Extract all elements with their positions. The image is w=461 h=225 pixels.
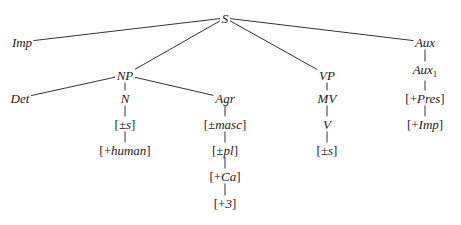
tree-node-v-s: [±s] <box>317 144 338 157</box>
tree-node-aux-imp: [+Imp] <box>407 118 443 131</box>
tree-node-vp: VP <box>319 69 335 82</box>
feature-close: ] <box>232 196 236 211</box>
node-label: Imp <box>12 35 32 50</box>
node-label: Agr <box>215 91 235 106</box>
feature-name: Ca <box>221 169 236 184</box>
node-label: Det <box>11 91 30 106</box>
feature-name: Imp <box>419 117 439 132</box>
tree-node-agr-3: [+3] <box>214 197 237 210</box>
tree-node-aux1: Aux1 <box>413 63 438 80</box>
feature-close: ] <box>236 169 240 184</box>
feature-open: [± <box>317 143 328 158</box>
tree-node-agr-pl: [±pl] <box>212 144 238 157</box>
feature-close: ] <box>146 143 150 158</box>
feature-name: pl <box>224 143 234 158</box>
feature-close: ] <box>439 117 443 132</box>
tree-node-aux-pres: [+Pres] <box>405 92 444 105</box>
tree-node-np: NP <box>117 69 134 82</box>
node-label: Aux <box>415 35 435 50</box>
node-label: N <box>121 91 130 106</box>
feature-open: [+ <box>214 196 226 211</box>
tree-node-n-human: [+human] <box>99 144 150 157</box>
node-subscript: 1 <box>433 69 438 79</box>
node-label: NP <box>117 68 134 83</box>
tree-node-mv: MV <box>318 92 337 105</box>
tree-node-agr: Agr <box>215 92 235 105</box>
feature-close: ] <box>333 143 337 158</box>
node-label: VP <box>319 68 335 83</box>
node-label: V <box>323 117 331 132</box>
feature-close: ] <box>440 91 444 106</box>
tree-node-n: N <box>121 92 130 105</box>
edge-s-np <box>135 21 220 69</box>
tree-node-agr-masc: [±masc] <box>204 118 247 131</box>
feature-name: Pres <box>417 91 440 106</box>
tree-node-imp: Imp <box>12 36 32 49</box>
tree-node-aux: Aux <box>415 36 435 49</box>
tree-node-v: V <box>323 118 331 131</box>
tree-node-agr-ca: [+Ca] <box>209 170 240 183</box>
feature-close: ] <box>234 143 238 158</box>
feature-open: [± <box>212 143 223 158</box>
tree-node-s: S <box>222 12 229 25</box>
edge-np-det <box>31 77 115 95</box>
feature-close: ] <box>131 117 135 132</box>
edge-s-vp <box>230 21 318 70</box>
feature-open: [+ <box>407 117 419 132</box>
tree-edges <box>0 0 461 225</box>
feature-open: [+ <box>405 91 417 106</box>
edge-np-agr <box>135 77 214 95</box>
feature-open: [+ <box>99 143 111 158</box>
feature-open: [+ <box>209 169 221 184</box>
feature-open: [± <box>115 117 126 132</box>
node-label: Aux <box>413 62 433 77</box>
tree-node-det: Det <box>11 92 30 105</box>
feature-name: masc <box>215 117 242 132</box>
feature-open: [± <box>204 117 215 132</box>
feature-close: ] <box>242 117 246 132</box>
node-label: MV <box>318 91 337 106</box>
node-label: S <box>222 11 229 26</box>
edge-s-aux <box>230 19 414 41</box>
tree-node-n-s: [±s] <box>115 118 136 131</box>
feature-name: human <box>111 143 146 158</box>
